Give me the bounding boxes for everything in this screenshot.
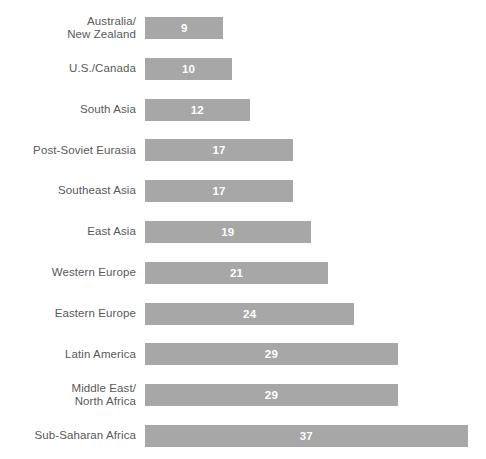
bar: 24 (145, 303, 354, 325)
bar-row: Post-Soviet Eurasia17 (0, 139, 486, 161)
category-label: Sub-Saharan Africa (0, 429, 136, 443)
bar-track: 9 (145, 17, 223, 39)
bar-track: 21 (145, 262, 328, 284)
bar-track: 17 (145, 180, 293, 202)
bar-value-label: 9 (181, 22, 188, 34)
bar: 21 (145, 262, 328, 284)
category-label: Post-Soviet Eurasia (0, 144, 136, 158)
bar-track: 10 (145, 58, 232, 80)
bar-row: Southeast Asia17 (0, 180, 486, 202)
bar: 9 (145, 17, 223, 39)
bar-track: 29 (145, 343, 398, 365)
bar: 10 (145, 58, 232, 80)
bar-value-label: 10 (182, 63, 195, 75)
category-label: Eastern Europe (0, 307, 136, 321)
bar: 29 (145, 384, 398, 406)
category-label: South Asia (0, 103, 136, 117)
bar-row: Western Europe21 (0, 262, 486, 284)
category-label: Australia/ New Zealand (0, 15, 136, 42)
bar-value-label: 17 (213, 144, 226, 156)
bar-value-label: 17 (213, 185, 226, 197)
bar-value-label: 24 (243, 308, 256, 320)
bar-track: 37 (145, 425, 468, 447)
bar-row: South Asia12 (0, 99, 486, 121)
bar-value-label: 19 (221, 226, 234, 238)
category-label: Southeast Asia (0, 184, 136, 198)
bar: 17 (145, 180, 293, 202)
category-label: Western Europe (0, 266, 136, 280)
bar-value-label: 29 (265, 389, 278, 401)
bar-row: Sub-Saharan Africa37 (0, 425, 486, 447)
bar: 12 (145, 99, 250, 121)
bar-value-label: 29 (265, 348, 278, 360)
bar-track: 29 (145, 384, 398, 406)
category-label: East Asia (0, 225, 136, 239)
bar-row: Middle East/ North Africa29 (0, 384, 486, 406)
bar-row: U.S./Canada10 (0, 58, 486, 80)
category-label: U.S./Canada (0, 62, 136, 76)
bar-track: 12 (145, 99, 250, 121)
bar: 17 (145, 139, 293, 161)
bar: 37 (145, 425, 468, 447)
bar: 29 (145, 343, 398, 365)
bar-value-label: 37 (300, 430, 313, 442)
bar-track: 19 (145, 221, 311, 243)
bar-value-label: 12 (191, 104, 204, 116)
bar-value-label: 21 (230, 267, 243, 279)
bar-track: 17 (145, 139, 293, 161)
bar-row: Australia/ New Zealand9 (0, 17, 486, 39)
category-label: Latin America (0, 348, 136, 362)
bar-row: East Asia19 (0, 221, 486, 243)
bar-track: 24 (145, 303, 354, 325)
bar-row: Eastern Europe24 (0, 303, 486, 325)
bar-row: Latin America29 (0, 343, 486, 365)
horizontal-bar-chart: Australia/ New Zealand9U.S./Canada10Sout… (0, 0, 486, 459)
category-label: Middle East/ North Africa (0, 382, 136, 409)
bar: 19 (145, 221, 311, 243)
